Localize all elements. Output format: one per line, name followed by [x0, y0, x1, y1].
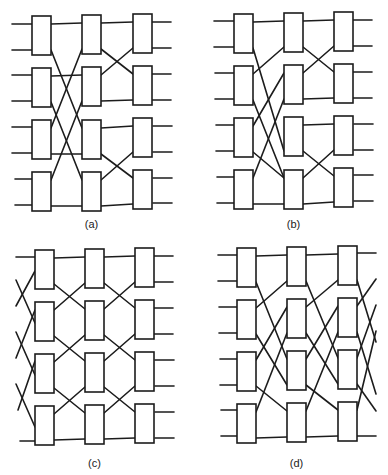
switch-box [287, 247, 306, 286]
switch-box [284, 65, 303, 104]
link-line [306, 254, 338, 255]
switch-box [35, 354, 54, 393]
link-line [303, 98, 334, 99]
switch-box [133, 170, 152, 209]
switch-box [85, 353, 104, 392]
panel-caption: (c) [80, 457, 110, 469]
panel-caption: (b) [279, 218, 309, 230]
switch-box [287, 403, 306, 442]
switch-box [35, 406, 54, 445]
network-panel-c: (c) [0, 237, 194, 474]
network-diagram-a [0, 0, 194, 237]
input-line [16, 310, 35, 358]
switch-box [338, 350, 357, 389]
switch-box [133, 118, 152, 157]
link-line [306, 436, 338, 437]
link-line [253, 21, 284, 22]
link-line [101, 100, 133, 101]
switch-box [237, 352, 256, 391]
switch-box [237, 248, 256, 287]
switch-box [35, 302, 54, 341]
switch-box [284, 117, 303, 156]
link-line [104, 256, 135, 257]
switch-box [133, 14, 152, 53]
link-line [51, 75, 82, 76]
link-line [51, 23, 82, 24]
switch-box [338, 298, 357, 337]
link-line [303, 20, 334, 21]
switch-box [234, 118, 253, 157]
network-diagram-b [194, 0, 388, 237]
link-line [306, 306, 338, 359]
network-panel-a: (a) [0, 0, 194, 237]
network-diagram-c [0, 237, 194, 474]
switch-box [338, 246, 357, 285]
switch-box [234, 66, 253, 105]
switch-box [284, 170, 303, 209]
link-line [253, 73, 284, 126]
panel-caption: (d) [282, 457, 312, 469]
switch-box [32, 172, 51, 211]
switch-box [133, 66, 152, 105]
switch-box [32, 16, 51, 55]
switch-box [35, 250, 54, 289]
input-line [18, 361, 35, 410]
link-line [303, 202, 334, 204]
switch-box [82, 67, 101, 106]
link-line [256, 437, 287, 438]
switch-box [334, 12, 353, 51]
switch-box [85, 249, 104, 288]
link-line [253, 47, 284, 74]
switch-box [135, 300, 154, 339]
link-line [256, 333, 287, 412]
switch-box [82, 15, 101, 54]
link-line [101, 204, 133, 206]
switch-box [85, 301, 104, 340]
link-line [101, 152, 133, 180]
link-line [104, 438, 135, 439]
output-line [357, 279, 376, 306]
switch-box [85, 405, 104, 444]
switch-box [135, 352, 154, 391]
switch-box [32, 120, 51, 159]
network-panel-d: (d) [194, 237, 388, 474]
link-line [54, 439, 85, 440]
switch-box [334, 168, 353, 207]
switch-box [284, 13, 303, 52]
network-diagram-d [194, 237, 388, 474]
switch-box [338, 402, 357, 441]
switch-box [82, 120, 101, 159]
link-line [256, 255, 287, 256]
switch-box [234, 14, 253, 53]
link-line [54, 257, 85, 258]
switch-box [287, 351, 306, 390]
link-line [101, 22, 133, 23]
switch-box [82, 172, 101, 211]
switch-box [287, 299, 306, 338]
switch-box [135, 404, 154, 443]
link-line [101, 126, 133, 128]
link-line [256, 307, 287, 360]
switch-box [237, 404, 256, 443]
link-line [306, 333, 338, 384]
link-line [306, 332, 338, 411]
network-panel-b: (b) [194, 0, 388, 237]
switch-box [334, 116, 353, 155]
switch-box [237, 300, 256, 339]
panel-caption: (a) [77, 218, 107, 230]
switch-box [234, 170, 253, 209]
link-line [303, 124, 334, 125]
switch-box [135, 248, 154, 287]
switch-box [32, 68, 51, 107]
link-line [256, 334, 287, 385]
switch-box [334, 64, 353, 103]
